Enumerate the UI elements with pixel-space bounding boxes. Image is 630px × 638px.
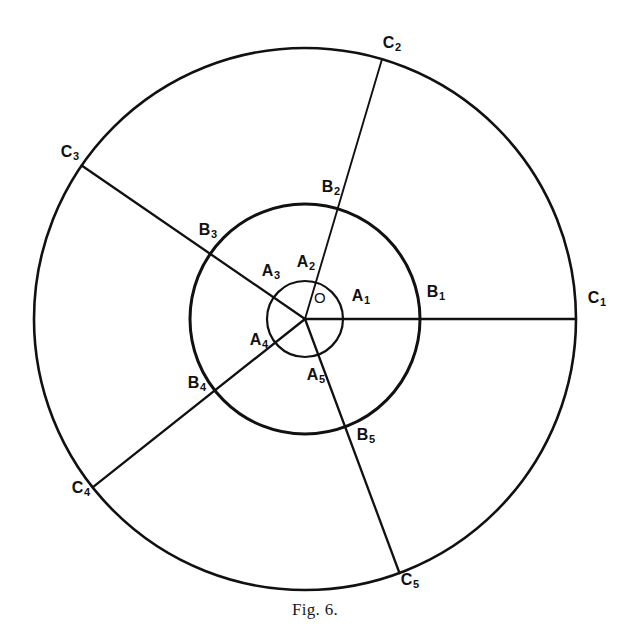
radial-lines-group: [82, 59, 576, 573]
label-point-c5: C5: [401, 572, 420, 590]
label-point-b4: B4: [188, 375, 207, 393]
geometry-diagram: [0, 0, 630, 638]
label-origin-o: O: [314, 290, 326, 305]
radial-line-2: [305, 59, 382, 319]
label-point-b2: B2: [322, 179, 341, 197]
label-point-a1: A1: [352, 288, 371, 306]
label-point-b3: B3: [199, 222, 218, 240]
label-point-c4: C4: [72, 480, 91, 498]
label-point-c3: C3: [61, 144, 80, 162]
label-point-a2: A2: [297, 254, 316, 272]
figure-caption: Fig. 6.: [0, 600, 630, 620]
label-point-b5: B5: [357, 427, 376, 445]
label-point-a3: A3: [262, 263, 281, 281]
label-point-c1: C1: [588, 290, 607, 308]
label-point-b1: B1: [427, 284, 446, 302]
radial-line-4: [93, 319, 305, 487]
label-point-a5: A5: [307, 367, 326, 385]
label-point-a4: A4: [250, 332, 269, 350]
label-point-c2: C2: [383, 35, 402, 53]
figure-container: OA1B1C1A2B2C2A3B3C3A4B4C4A5B5C5 Fig. 6.: [0, 0, 630, 638]
radial-line-5: [305, 319, 399, 573]
